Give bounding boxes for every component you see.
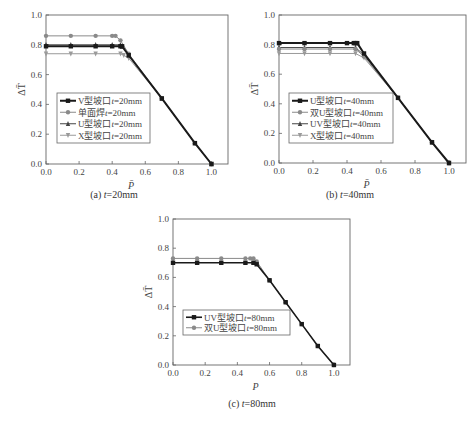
x-tick-label: 0.8	[296, 368, 308, 378]
data-point-marker	[243, 261, 247, 265]
caption-b-prefix: (b)	[326, 189, 340, 200]
y-tick-label: 0.2	[158, 331, 169, 341]
legend-marker	[192, 326, 196, 330]
caption-a-value: =20mm	[107, 189, 138, 200]
caption-b-value: =40mm	[343, 189, 374, 200]
y-tick-label: 0.8	[158, 243, 170, 253]
caption-a: (a) t=20mm	[74, 189, 154, 200]
data-point-marker	[316, 344, 320, 348]
data-point-marker	[300, 322, 304, 326]
data-point-marker	[283, 300, 287, 304]
x-tick-label: 0.2	[200, 368, 211, 378]
x-tick-label: 0.6	[264, 368, 276, 378]
caption-c-value: =80mm	[245, 398, 276, 409]
data-point-marker	[332, 363, 336, 367]
chart-panel-c: 0.00.20.40.60.81.00.00.20.40.60.81.0PΔT̄…	[0, 0, 473, 422]
plot-frame	[173, 219, 350, 365]
caption-c: (c) t=80mm	[212, 398, 292, 409]
legend-label: UV型坡口t=80mm	[204, 312, 275, 323]
caption-c-prefix: (c)	[228, 398, 242, 409]
legend-label: 双U型坡口t=80mm	[204, 322, 277, 333]
data-point-marker	[195, 256, 199, 260]
data-point-marker	[219, 261, 223, 265]
caption-b: (b) t=40mm	[310, 189, 390, 200]
y-axis-label: ΔT̄	[143, 286, 154, 299]
legend-marker	[192, 315, 196, 319]
x-axis-label: P	[251, 381, 258, 392]
x-tick-label: 1.0	[328, 368, 340, 378]
data-point-marker	[243, 256, 247, 260]
caption-a-prefix: (a)	[90, 189, 104, 200]
data-point-marker	[195, 261, 199, 265]
x-tick-label: 0.4	[232, 368, 244, 378]
x-tick-label: 0.0	[167, 368, 179, 378]
y-tick-label: 1.0	[158, 214, 170, 224]
data-point-marker	[267, 278, 271, 282]
y-tick-label: 0.6	[158, 272, 170, 282]
legend: UV型坡口t=80mm双U型坡口t=80mm	[183, 310, 290, 335]
data-point-marker	[219, 256, 223, 260]
data-point-marker	[171, 261, 175, 265]
y-tick-label: 0.4	[158, 302, 170, 312]
data-point-marker	[171, 256, 175, 260]
data-point-marker	[254, 262, 258, 266]
y-tick-label: 0.0	[158, 360, 170, 370]
